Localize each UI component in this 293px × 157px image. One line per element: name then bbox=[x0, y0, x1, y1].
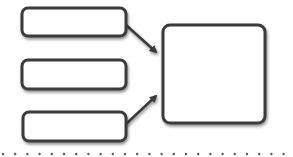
input-box-3 bbox=[23, 112, 126, 141]
input-box-2 bbox=[22, 60, 126, 89]
arrows bbox=[126, 25, 156, 124]
diagram-canvas bbox=[0, 0, 293, 157]
arrow-1 bbox=[126, 25, 156, 52]
input-box-1 bbox=[22, 8, 126, 36]
arrow-3 bbox=[126, 96, 156, 124]
output-box bbox=[163, 25, 265, 123]
